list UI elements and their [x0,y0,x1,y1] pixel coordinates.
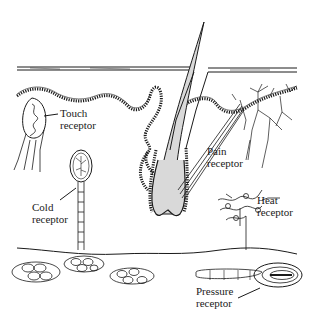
hypodermis-boundary [17,248,297,254]
pressure-receptor-label: Pressure receptor [196,285,233,309]
touch-receptor [14,98,58,172]
cold-receptor-label: Cold receptor [32,201,68,225]
fat-lobules [12,256,154,284]
touch-label-line1: Touch [60,107,96,119]
cold-label-line1: Cold [32,201,68,213]
touch-receptor-label: Touch receptor [60,107,96,131]
pain-label-line1: Pain [207,145,243,157]
epidermis-surface [17,67,297,72]
diagram-artwork [0,0,314,314]
dermal-junction-inner [17,86,297,110]
heat-receptor-label: Heat receptor [257,194,293,218]
hair-follicle [150,22,208,216]
cold-receptor [60,150,92,250]
pain-label-line2: receptor [207,157,243,169]
skin-receptor-diagram: Touch receptor Pain receptor Cold recept… [0,0,314,314]
cold-label-line2: receptor [32,213,68,225]
touch-label-line2: receptor [60,119,96,131]
pressure-label-line2: receptor [196,297,233,309]
heat-label-line2: receptor [257,206,293,218]
heat-label-line1: Heat [257,194,293,206]
pain-receptor-label: Pain receptor [207,145,243,169]
pressure-label-line1: Pressure [196,285,233,297]
